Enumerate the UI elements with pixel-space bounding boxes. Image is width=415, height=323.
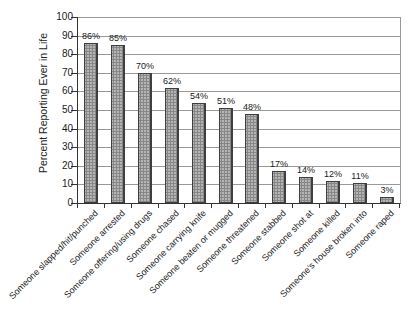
gridline — [78, 129, 400, 130]
y-tick-label: 80 — [40, 48, 73, 60]
x-tick-mark — [265, 204, 266, 208]
gridline — [78, 54, 400, 55]
x-tick-mark — [292, 204, 293, 208]
bar-value-label: 3% — [370, 185, 404, 195]
gridline — [78, 91, 400, 92]
bar — [272, 171, 286, 203]
bar — [219, 108, 233, 203]
x-tick-mark — [399, 204, 400, 208]
gridline — [78, 17, 400, 18]
bar — [111, 45, 125, 203]
bar — [380, 197, 394, 203]
bar-value-label: 85% — [101, 33, 135, 43]
bar — [299, 177, 313, 203]
x-tick-mark — [104, 204, 105, 208]
y-tick-label: 10 — [40, 178, 73, 190]
bar-chart: Percent Reporting Ever in Life 86%85%70%… — [0, 0, 415, 323]
bar — [84, 43, 98, 203]
bar — [165, 88, 179, 203]
x-tick-mark — [131, 204, 132, 208]
y-tick-label: 30 — [40, 141, 73, 153]
y-tick-label: 20 — [40, 160, 73, 172]
x-tick-mark — [158, 204, 159, 208]
y-tick-label: 60 — [40, 85, 73, 97]
bar-value-label: 62% — [155, 76, 189, 86]
gridline — [78, 184, 400, 185]
category-label: Someone raped — [344, 208, 396, 260]
x-tick-mark — [319, 204, 320, 208]
bar-value-label: 70% — [128, 61, 162, 71]
x-tick-mark — [345, 204, 346, 208]
x-tick-mark — [238, 204, 239, 208]
bar — [245, 114, 259, 203]
x-tick-mark — [77, 204, 78, 208]
y-tick-label: 50 — [40, 104, 73, 116]
plot-area: 86%85%70%62%54%51%48%17%14%12%11%3% — [77, 17, 401, 204]
y-tick-label: 90 — [40, 30, 73, 42]
bar — [138, 73, 152, 203]
bar — [353, 183, 367, 203]
x-tick-mark — [372, 204, 373, 208]
bar-value-label: 11% — [343, 171, 377, 181]
y-tick-label: 40 — [40, 123, 73, 135]
gridline — [78, 166, 400, 167]
gridline — [78, 147, 400, 148]
bar — [192, 103, 206, 203]
y-tick-label: 0 — [40, 197, 73, 209]
y-tick-label: 70 — [40, 67, 73, 79]
x-tick-mark — [211, 204, 212, 208]
x-tick-mark — [184, 204, 185, 208]
y-tick-label: 100 — [40, 11, 73, 23]
bar — [326, 181, 340, 203]
bar-value-label: 48% — [235, 102, 269, 112]
gridline — [78, 73, 400, 74]
